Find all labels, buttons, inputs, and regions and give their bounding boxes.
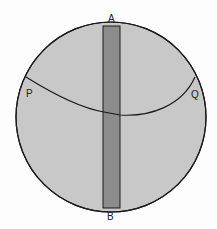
label-A: A — [108, 13, 115, 24]
vertical-strip-AB — [103, 26, 120, 208]
label-P: P — [26, 88, 33, 99]
label-Q: Q — [191, 89, 199, 100]
sphere-diagram: A B P Q — [0, 0, 217, 229]
label-B: B — [107, 211, 114, 222]
